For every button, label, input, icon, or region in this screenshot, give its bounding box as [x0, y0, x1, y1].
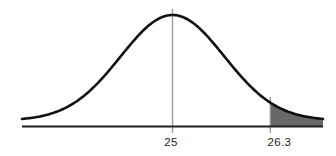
normal-distribution-chart: 25 26.3: [0, 0, 336, 156]
bell-curve-canvas: [0, 0, 336, 156]
mean-tick-label: 25: [164, 135, 177, 149]
cutoff-tick-label: 26.3: [268, 135, 292, 149]
